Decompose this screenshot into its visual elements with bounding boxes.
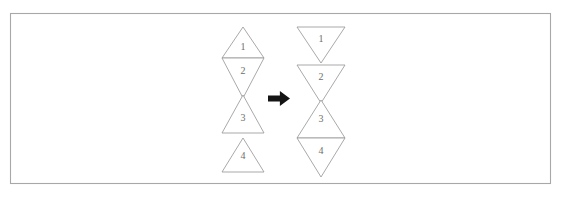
triangle-label-before-stack-3: 3 <box>241 112 246 123</box>
triangle-label-before-stack-4: 4 <box>241 150 246 161</box>
figure-root: 1234 1234 <box>0 0 562 197</box>
triangle-transformation-figure: 1234 1234 <box>0 0 562 197</box>
triangle-label-before-stack-1: 1 <box>241 41 246 52</box>
triangle-label-before-stack-2: 2 <box>241 65 246 76</box>
triangle-label-after-stack-3: 3 <box>319 113 324 124</box>
triangle-label-after-stack-1: 1 <box>319 33 324 44</box>
triangle-label-after-stack-4: 4 <box>319 145 324 156</box>
triangle-label-after-stack-2: 2 <box>319 71 324 82</box>
